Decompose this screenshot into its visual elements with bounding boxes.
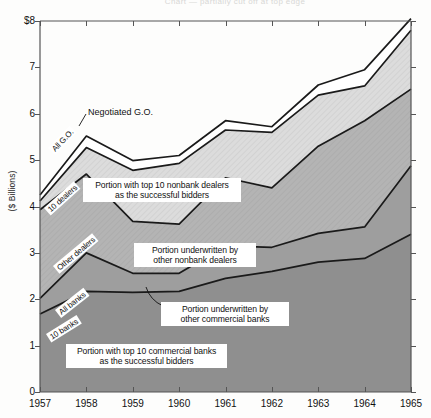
x-tick-mark-top — [318, 21, 319, 26]
callout-top10-nonbank: Portion with top 10 nonbank dealers as t… — [83, 178, 241, 202]
y-tick-mark-right — [411, 207, 416, 208]
y-tick-label: 6 — [8, 108, 35, 119]
y-tick-label: 2 — [8, 293, 35, 304]
x-tick-mark-top — [179, 21, 180, 26]
y-tick-mark — [35, 67, 40, 68]
y-tick-label: 1 — [8, 340, 35, 351]
x-tick-mark — [179, 387, 180, 392]
y-tick-mark — [35, 114, 40, 115]
x-tick-mark-top — [226, 21, 227, 26]
x-tick-mark — [272, 387, 273, 392]
y-tick-mark-right — [411, 253, 416, 254]
y-tick-mark — [35, 299, 40, 300]
y-tick-mark-right — [411, 392, 416, 393]
y-tick-label: 4 — [8, 201, 35, 212]
y-tick-mark-right — [411, 346, 416, 347]
x-tick-label: 1961 — [203, 398, 249, 409]
x-tick-mark-top — [133, 21, 134, 26]
x-tick-label: 1957 — [17, 398, 63, 409]
x-tick-mark — [40, 387, 41, 392]
x-tick-mark — [226, 387, 227, 392]
x-tick-label: 1965 — [388, 398, 431, 409]
x-tick-mark — [365, 387, 366, 392]
x-tick-mark-top — [365, 21, 366, 26]
y-tick-label: 0 — [8, 386, 35, 397]
x-tick-mark — [411, 387, 412, 392]
y-tick-label: $8 — [8, 15, 35, 26]
y-tick-mark-right — [411, 114, 416, 115]
callout-other-nonbank: Portion underwritten by other nonbank de… — [134, 243, 256, 267]
y-tick-mark — [35, 160, 40, 161]
x-tick-label: 1964 — [342, 398, 388, 409]
x-tick-mark — [318, 387, 319, 392]
x-tick-label: 1962 — [249, 398, 295, 409]
x-tick-label: 1959 — [110, 398, 156, 409]
y-tick-mark-right — [411, 299, 416, 300]
x-tick-label: 1958 — [63, 398, 109, 409]
x-tick-mark-top — [86, 21, 87, 26]
x-tick-mark-top — [40, 21, 41, 26]
x-tick-mark-top — [272, 21, 273, 26]
y-tick-label: 3 — [8, 247, 35, 258]
chart-figure: Chart — partially cut off at top edge ($… — [0, 0, 431, 418]
y-tick-mark — [35, 392, 40, 393]
x-tick-mark — [86, 387, 87, 392]
x-tick-label: 1960 — [156, 398, 202, 409]
y-tick-label: 7 — [8, 61, 35, 72]
x-tick-mark-top — [411, 21, 412, 26]
y-tick-mark-right — [411, 67, 416, 68]
y-tick-label: 5 — [8, 154, 35, 165]
label-negotiated-go: Negotiated G.O. — [88, 107, 153, 117]
y-tick-mark-right — [411, 160, 416, 161]
callout-other-commercial: Portion underwritten by other commercial… — [161, 302, 289, 326]
y-tick-mark — [35, 346, 40, 347]
callout-top10-commercial: Portion with top 10 commercial banks as … — [66, 344, 227, 368]
y-tick-mark — [35, 207, 40, 208]
y-tick-mark — [35, 253, 40, 254]
x-tick-label: 1963 — [295, 398, 341, 409]
x-tick-mark — [133, 387, 134, 392]
